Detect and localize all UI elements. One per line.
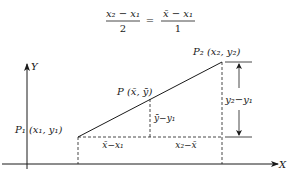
equation-rhs-denominator: 1 — [175, 23, 181, 34]
label-p2: P₂ (x₂, y₂) — [192, 46, 240, 57]
equation-equals: = — [146, 15, 154, 26]
equation-rhs-numerator: x̄ − x₁ — [163, 8, 193, 19]
diagram-canvas: x₂ − x₁ 2 = x̄ − x₁ 1 Y X y₂−y₁ P₁ (x₁, … — [0, 0, 289, 171]
label-xbar-minus-x1: x̄−x₁ — [102, 140, 123, 150]
equation-lhs-numerator: x₂ − x₁ — [106, 8, 140, 19]
label-y2-minus-y1: y₂−y₁ — [224, 94, 253, 105]
y-axis-label: Y — [31, 61, 39, 72]
label-p1: P₁ (x₁, y₁) — [14, 124, 62, 135]
label-p: P (x̄, ȳ) — [116, 86, 152, 97]
midpoint-equation: x₂ − x₁ 2 = x̄ − x₁ 1 — [106, 8, 195, 34]
label-ybar-minus-y1: ȳ−y₁ — [153, 113, 175, 123]
label-x2-minus-xbar: x₂−x̄ — [175, 140, 197, 150]
x-axis-label: X — [278, 159, 287, 170]
equation-lhs-denominator: 2 — [120, 23, 126, 34]
